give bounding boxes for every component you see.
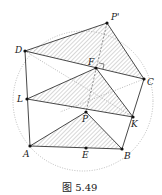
- geometry-figure: P' D F C L K P A E B 图 5.49: [0, 0, 162, 195]
- label-P-prime: P': [110, 12, 120, 22]
- label-C: C: [147, 77, 154, 87]
- label-P: P: [81, 114, 89, 124]
- label-K: K: [130, 119, 139, 129]
- point-P-prime: [105, 21, 108, 24]
- triangle-DP'C: [25, 23, 144, 79]
- label-L: L: [16, 94, 23, 104]
- label-A: A: [22, 149, 30, 159]
- point-F: [94, 66, 97, 69]
- point-L: [25, 97, 28, 100]
- point-C: [142, 77, 145, 80]
- figure-caption: 图 5.49: [62, 182, 97, 193]
- label-B: B: [123, 151, 131, 161]
- label-D: D: [14, 45, 22, 55]
- label-F: F: [87, 57, 95, 67]
- point-A: [28, 144, 31, 147]
- point-D: [23, 49, 26, 52]
- label-E: E: [81, 150, 89, 160]
